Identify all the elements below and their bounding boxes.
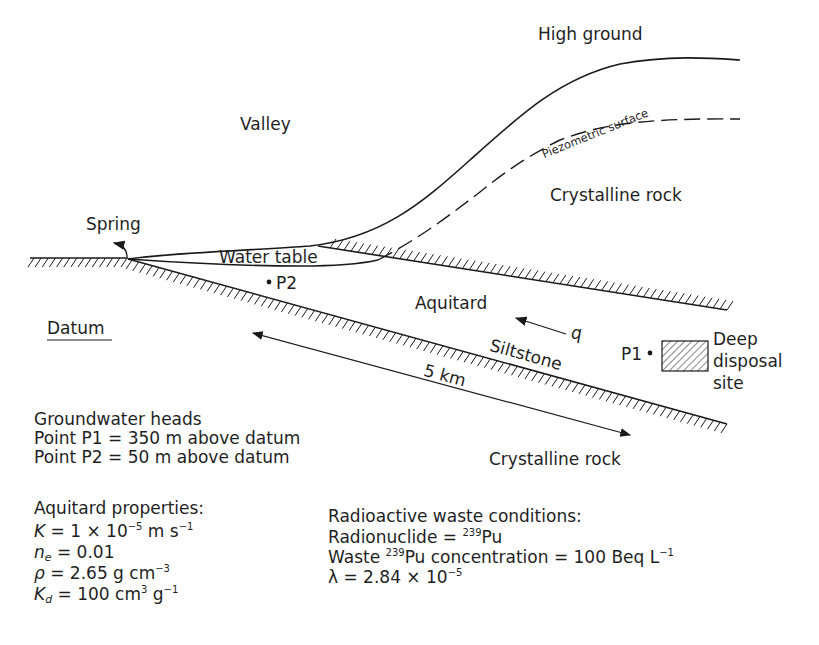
high-ground-label: High ground [538,24,643,44]
disposal-site-box [662,341,708,371]
valley-label: Valley [240,114,291,134]
spring-label: Spring [86,214,141,234]
decay-constant-line: λ = 2.84 × 10−5 [328,567,674,587]
crystalline-rock-lower-label: Crystalline rock [489,449,621,469]
valley-ground-surface [28,258,128,267]
property-kd: Kd = 100 cm3 g−1 [34,584,204,605]
aquitard-label: Aquitard [415,293,487,313]
property-rho: ρ = 2.65 g cm−3 [34,563,204,584]
p1-point-marker [648,351,653,356]
q-label: q [571,323,582,343]
property-ne: ne = 0.01 [34,542,204,563]
property-k: K = 1 × 10−5 m s−1 [34,521,204,542]
groundwater-head-p1: Point P1 = 350 m above datum [34,429,300,448]
concentration-line: Waste 239Pu concentration = 100 Beq L−1 [328,547,674,567]
aquitard-properties-block: Aquitard properties: K = 1 × 10−5 m s−1 … [34,498,204,605]
datum-label: Datum [47,318,105,338]
ground-surface-curve [128,58,740,259]
flow-arrow-icon [516,318,566,334]
radionuclide-line: Radionuclide = 239Pu [328,527,674,547]
water-table-label: Water table [219,247,318,267]
groundwater-heads-title: Groundwater heads [34,410,300,429]
spring-arrow-icon [114,243,127,257]
groundwater-heads-block: Groundwater heads Point P1 = 350 m above… [34,410,300,467]
p1-label: P1 [621,344,642,364]
disposal-site-label: Deep disposal site [713,328,783,394]
groundwater-head-p2: Point P2 = 50 m above datum [34,448,300,467]
p2-point-marker [267,280,272,285]
crystalline-rock-upper-label: Crystalline rock [550,185,682,205]
aquitard-top-boundary [318,239,733,310]
p2-label: P2 [276,273,297,293]
waste-conditions-title: Radioactive waste conditions: [328,506,674,526]
waste-conditions-block: Radioactive waste conditions: Radionucli… [328,506,674,587]
aquitard-properties-title: Aquitard properties: [34,498,204,519]
